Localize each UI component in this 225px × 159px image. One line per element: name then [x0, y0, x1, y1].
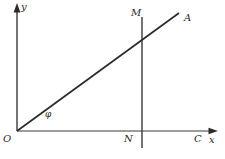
- y-axis-arrowhead-icon: [14, 3, 21, 13]
- point-label-c: C: [194, 134, 202, 144]
- y-axis: [14, 3, 21, 131]
- angle-label-phi: φ: [45, 110, 51, 119]
- ray-oa: [17, 13, 179, 131]
- point-label-n: N: [124, 134, 133, 144]
- x-axis-label: x: [209, 135, 215, 145]
- x-axis: [17, 128, 218, 134]
- point-label-m: M: [131, 8, 141, 18]
- origin-label: O: [3, 134, 11, 144]
- geometry-figure: y M A φ O N C x: [0, 0, 225, 159]
- y-axis-label: y: [21, 2, 27, 12]
- figure-canvas: [0, 0, 225, 159]
- point-label-a: A: [184, 13, 191, 23]
